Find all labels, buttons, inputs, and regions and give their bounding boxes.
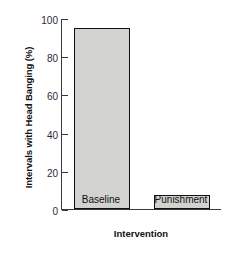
bar [74, 28, 130, 209]
y-axis-tick-label: 40 [47, 129, 58, 140]
x-axis-tick-label: Baseline [82, 194, 120, 205]
y-axis-tick-label: 60 [47, 91, 58, 102]
y-axis-tick: 80 [62, 57, 68, 58]
y-axis-title: Intervals with Head Banging (%) [23, 18, 34, 218]
bar-chart-figure: Intervals with Head Banging (%) 02040608… [0, 0, 238, 258]
y-axis-tick: 20 [62, 172, 68, 173]
plot-area: 020406080100 [61, 19, 221, 210]
y-axis-tick: 100 [62, 19, 68, 20]
y-axis-tick: 0 [62, 210, 68, 211]
y-axis-tick-label: 20 [47, 167, 58, 178]
y-axis-tick: 60 [62, 95, 68, 96]
x-axis-tick-label: Punishment [155, 194, 208, 205]
y-axis-tick-label: 100 [41, 15, 58, 26]
x-axis-title: Intervention [61, 228, 221, 239]
y-axis-tick: 40 [62, 134, 68, 135]
y-axis-tick-label: 0 [52, 206, 58, 217]
y-axis-tick-label: 80 [47, 53, 58, 64]
